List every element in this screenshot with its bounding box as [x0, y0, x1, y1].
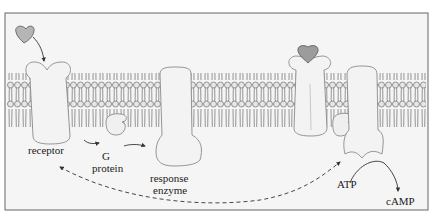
g-protein: [106, 114, 126, 135]
atp-label: ATP: [337, 178, 357, 190]
camp-label: cAMP: [386, 195, 415, 207]
g-protein-label-line1: G: [100, 150, 112, 162]
response-enzyme-label-line2: enzyme: [153, 184, 187, 196]
response-enzyme-label-line1: response: [150, 172, 189, 184]
active-response-enzyme: [344, 66, 383, 158]
receptor-protein: [26, 62, 71, 144]
receptor-label: receptor: [28, 144, 64, 156]
signal-transduction-diagram: [0, 0, 435, 217]
g-protein-label-line2: protein: [92, 162, 123, 174]
active-receptor: [289, 46, 331, 136]
